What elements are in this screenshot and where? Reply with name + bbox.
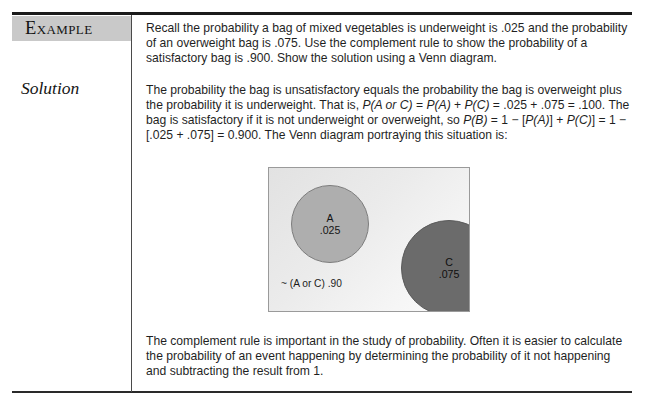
page-bottom-rule (12, 391, 632, 393)
venn-circle-c-label: C .075 (439, 256, 460, 281)
math-p-c-second: P(C) (567, 113, 592, 127)
solution-paragraph: The probability the bag is unsatisfactor… (146, 83, 633, 144)
venn-circle-c-value: .075 (439, 268, 460, 280)
solution-label: Solution (21, 78, 79, 99)
body-column: Recall the probability a bag of mixed ve… (146, 21, 633, 143)
closing-column: The complement rule is important in the … (146, 334, 633, 380)
math-p-a-second: P(A) (525, 113, 549, 127)
closing-paragraph: The complement rule is important in the … (146, 334, 633, 380)
venn-circle-a-value: .025 (320, 224, 341, 236)
venn-circle-a: A .025 (291, 185, 369, 263)
venn-circle-a-name: A (320, 212, 341, 224)
math-p-c-first: P(C) (465, 98, 490, 112)
example-header-band: Example (12, 16, 131, 41)
math-p-b: P(B) (463, 113, 487, 127)
solution-text-part6: ] + (550, 113, 567, 127)
venn-circle-c: C .075 (401, 220, 470, 312)
solution-text-part5: = 1 − [ (487, 113, 525, 127)
venn-circle-c-name: C (439, 256, 460, 268)
solution-text-part3: + (451, 98, 465, 112)
column-divider-rule (131, 15, 132, 392)
venn-complement-label: ~ (A or C) .90 (281, 278, 342, 289)
page-top-rule (12, 12, 632, 15)
problem-statement: Recall the probability a bag of mixed ve… (146, 21, 633, 67)
venn-circle-a-label: A .025 (320, 212, 341, 237)
venn-diagram: A .025 C .075 ~ (A or C) .90 (268, 167, 470, 312)
solution-text-part2: = (413, 98, 427, 112)
math-p-a-first: P(A) (426, 98, 450, 112)
label-column: Example (12, 16, 131, 41)
example-label: Example (25, 19, 93, 38)
math-p-a-or-c: P(A or C) (362, 98, 412, 112)
